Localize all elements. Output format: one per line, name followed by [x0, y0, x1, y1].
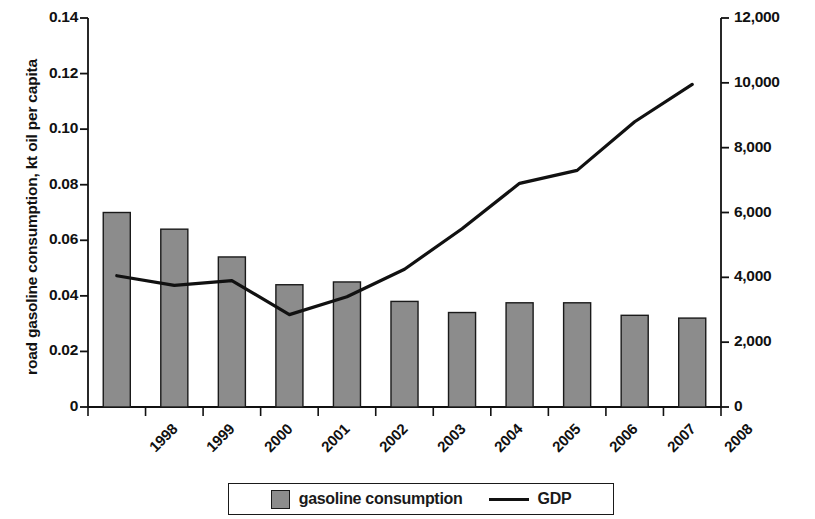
legend-item-gdp: GDP [489, 490, 572, 508]
y-axis-right-tick-5: 10,000 [734, 73, 814, 91]
chart-plot-area [0, 0, 815, 519]
legend-swatch-icon [271, 490, 290, 509]
legend-label-gdp: GDP [538, 490, 572, 508]
y-axis-right-tick-1: 2,000 [734, 332, 814, 350]
line-series-gdp [117, 84, 692, 314]
chart-legend: gasoline consumption GDP [228, 483, 614, 515]
y-axis-right-tick-4: 8,000 [734, 138, 814, 156]
y-axis-left-tick-6: 0.12 [8, 64, 78, 82]
bar-2003 [391, 301, 418, 407]
gdp-line-path [117, 84, 692, 314]
legend-line-icon [489, 498, 529, 501]
bar-2004 [449, 313, 476, 407]
chart-figure: road gasoline consumption, kt oil per ca… [0, 0, 815, 519]
bar-2005 [506, 303, 533, 407]
y-axis-left-tick-7: 0.14 [8, 8, 78, 26]
y-axis-right-tick-3: 6,000 [734, 203, 814, 221]
legend-item-gasoline-consumption: gasoline consumption [271, 490, 463, 509]
y-axis-right-tick-2: 4,000 [734, 267, 814, 285]
y-axis-left-tick-4: 0.08 [8, 175, 78, 193]
bar-1998 [103, 213, 130, 408]
bar-2006 [564, 303, 591, 407]
bar-1999 [161, 229, 188, 407]
y-axis-left-tick-5: 0.10 [8, 119, 78, 137]
bar-series-gasoline-consumption [103, 213, 706, 408]
bar-2001 [276, 285, 303, 407]
y-axis-right-tick-6: 12,000 [734, 8, 814, 26]
y-axis-right-tick-0: 0 [734, 397, 814, 415]
bar-2007 [621, 315, 648, 407]
bar-2008 [679, 318, 706, 407]
y-axis-left-tick-1: 0.02 [8, 341, 78, 359]
y-axis-left-tick-0: 0 [8, 397, 78, 415]
y-axis-left-tick-2: 0.04 [8, 286, 78, 304]
legend-label-gasoline-consumption: gasoline consumption [299, 490, 463, 508]
y-axis-left-tick-3: 0.06 [8, 230, 78, 248]
